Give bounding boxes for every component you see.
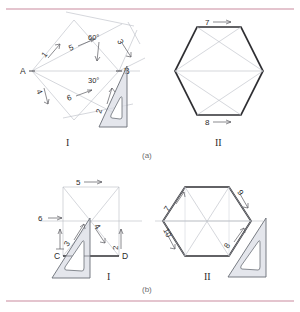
label-step-a1-5: 5 xyxy=(67,43,75,53)
label-angle-60: 60° xyxy=(88,33,99,42)
label-step-b2-10: 10 xyxy=(161,227,173,240)
label-step-b1-2: 2 xyxy=(111,245,120,250)
angle-leader-30: 30° xyxy=(88,76,99,85)
panel-a-stage-2: 7 8 II xyxy=(175,18,263,148)
step-arrow-a1-5: 5 xyxy=(67,39,95,53)
step-arrow-b1-6: 6 xyxy=(38,214,62,223)
step-arrow-a1-1: 1 xyxy=(40,44,60,59)
label-step-b1-6: 6 xyxy=(38,214,43,223)
label-point-c: C xyxy=(54,251,60,261)
step-arrow-b1-2: 2 xyxy=(111,229,123,250)
label-angle-30: 30° xyxy=(88,76,99,85)
label-roman-b2: II xyxy=(204,271,211,282)
panel-b-stage-1: C D 5 6 3 xyxy=(38,178,142,282)
caption-b: (b) xyxy=(142,285,152,294)
label-step-b1-4: 4 xyxy=(92,222,102,231)
angle-leader-60: 60° xyxy=(88,33,100,61)
label-roman-a2: II xyxy=(215,137,222,148)
panel-a-stage-1: A B 60° 30° 1 5 xyxy=(20,12,145,148)
label-step-a2-8: 8 xyxy=(205,118,210,127)
label-step-b2-8: 8 xyxy=(222,241,232,250)
figure-root: A B 60° 30° 1 5 xyxy=(0,0,300,312)
technical-drawing-canvas: A B 60° 30° 1 5 xyxy=(0,0,300,312)
label-point-a: A xyxy=(20,66,26,76)
step-arrow-b2-7: 7 xyxy=(162,192,185,213)
label-step-a2-7: 7 xyxy=(205,18,210,27)
label-step-b1-5: 5 xyxy=(76,178,81,187)
label-roman-a1: I xyxy=(66,137,69,148)
label-step-b2-9: 9 xyxy=(235,188,245,197)
caption-a: (a) xyxy=(142,151,152,160)
point-marker-d: D xyxy=(122,251,128,261)
label-step-a1-4: 4 xyxy=(34,88,44,96)
label-step-a1-3: 3 xyxy=(115,38,125,47)
point-marker-c: C xyxy=(54,251,60,261)
step-arrow-a1-4: 4 xyxy=(34,88,49,104)
step-arrow-b1-5: 5 xyxy=(76,178,102,187)
label-step-a1-6: 6 xyxy=(66,93,74,103)
step-arrow-b2-8: 8 xyxy=(222,228,245,250)
step-arrow-b1-4: 4 xyxy=(92,222,105,243)
step-arrow-a1-6: 6 xyxy=(66,90,92,103)
label-step-a1-2: 2 xyxy=(94,107,104,114)
step-arrow-a2-7: 7 xyxy=(205,18,231,27)
label-roman-b1: I xyxy=(107,271,110,282)
panel-b-stage-2: 7 9 10 8 II xyxy=(155,187,266,282)
step-arrow-a2-8: 8 xyxy=(205,118,231,127)
step-arrow-a1-3: 3 xyxy=(115,38,131,57)
label-point-d: D xyxy=(122,251,128,261)
set-square-a1 xyxy=(99,66,127,127)
point-marker-a: A xyxy=(20,66,35,76)
